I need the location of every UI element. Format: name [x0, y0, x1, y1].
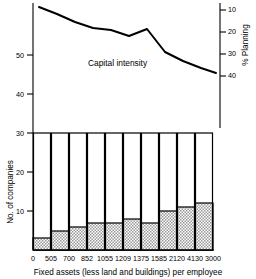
right-tick-label-20: 20	[228, 27, 236, 36]
left-tick-label-50: 50	[16, 51, 24, 60]
x-tick-label-1: 505	[45, 254, 57, 263]
right-tick-label-10: 10	[228, 5, 236, 14]
right-axis-title: % Planning	[241, 24, 250, 66]
bar-shade-5	[106, 223, 123, 250]
x-tick-label-7: 1585	[151, 254, 167, 263]
bar-shade-10	[196, 203, 213, 250]
left-tick-label-40: 40	[16, 90, 24, 99]
bar-shade-2	[52, 231, 69, 250]
capital-intensity-series: Capital intensity	[39, 7, 216, 73]
left-tick-label-20: 20	[16, 168, 24, 177]
x-tick-label-5: 1209	[115, 254, 131, 263]
x-axis: 0 505 700 852 1055 1209 1375 1585 2120 4…	[31, 250, 223, 277]
bar-shade-7	[142, 223, 159, 250]
bar-shade-3	[70, 227, 87, 250]
bar-shade-6	[124, 219, 141, 250]
x-tick-label-9: 4130	[187, 254, 203, 263]
capital-intensity-label: Capital intensity	[88, 58, 148, 68]
dual-axis-chart: 10 20 30 40 50 No. of companies 10 20 30…	[0, 0, 256, 279]
x-tick-label-0: 0	[31, 254, 35, 263]
left-axis: 10 20 30 40 50 No. of companies	[6, 3, 33, 250]
x-tick-label-3: 852	[81, 254, 93, 263]
bar-shade-8	[160, 211, 177, 250]
left-axis-title: No. of companies	[6, 160, 15, 224]
left-tick-label-10: 10	[16, 207, 24, 216]
bar-shade-4	[88, 223, 105, 250]
right-tick-label-30: 30	[228, 49, 236, 58]
bar-1	[34, 133, 51, 250]
left-tick-label-30: 30	[16, 129, 24, 138]
bars-group	[33, 133, 213, 250]
x-tick-label-8: 2120	[169, 254, 185, 263]
x-tick-label-4: 1055	[97, 254, 113, 263]
x-axis-title: Fixed assets (less land and buildings) p…	[34, 268, 223, 277]
bar-shade-1	[34, 238, 51, 250]
right-tick-label-40: 40	[228, 71, 236, 80]
x-tick-label-6: 1375	[133, 254, 149, 263]
x-tick-label-2: 700	[63, 254, 75, 263]
chart-container: 10 20 30 40 50 No. of companies 10 20 30…	[0, 0, 256, 279]
x-tick-label-10: 3000	[205, 254, 221, 263]
bar-shade-9	[178, 207, 195, 250]
right-axis: 10 20 30 40 % Planning	[220, 3, 250, 128]
